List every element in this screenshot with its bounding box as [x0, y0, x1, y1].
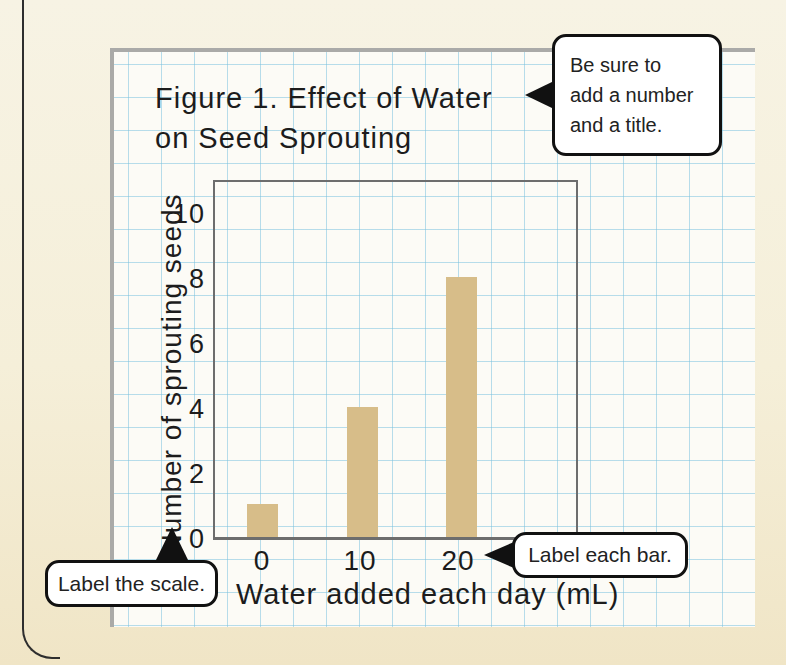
- y-axis-label: Number of sprouting seeds: [156, 193, 188, 554]
- bar-20ml: [446, 277, 477, 537]
- bar-0ml: [247, 504, 278, 537]
- callout-scale-note-arrow-icon: [155, 527, 189, 562]
- callout-bar-note-text: Label each bar.: [528, 540, 672, 570]
- x-tick-20: 20: [423, 545, 493, 577]
- x-axis-label: Water added each day (mL): [236, 578, 619, 611]
- x-tick-0: 0: [227, 545, 297, 577]
- callout-title-note-line3: and a title.: [570, 110, 711, 140]
- callout-scale-note-text: Label the scale.: [58, 569, 205, 599]
- chart-title-line1: Figure 1. Effect of Water: [155, 78, 493, 118]
- chart-title: Figure 1. Effect of Water on Seed Sprout…: [155, 78, 493, 158]
- callout-title-note-arrow-icon: [525, 81, 554, 109]
- callout-title-note-line2: add a number: [570, 80, 711, 110]
- callout-bar-note-arrow-icon: [484, 542, 514, 568]
- callout-title-note: Be sure to add a number and a title.: [552, 34, 722, 156]
- callout-scale-note: Label the scale.: [45, 560, 218, 607]
- chart-title-line2: on Seed Sprouting: [155, 118, 493, 158]
- plot-area: [213, 180, 578, 540]
- callout-bar-note: Label each bar.: [512, 532, 688, 578]
- callout-title-note-line1: Be sure to: [570, 50, 711, 80]
- bar-10ml: [347, 407, 378, 537]
- textbook-figure-panel: Figure 1. Effect of Water on Seed Sprout…: [0, 0, 786, 665]
- x-tick-10: 10: [325, 545, 395, 577]
